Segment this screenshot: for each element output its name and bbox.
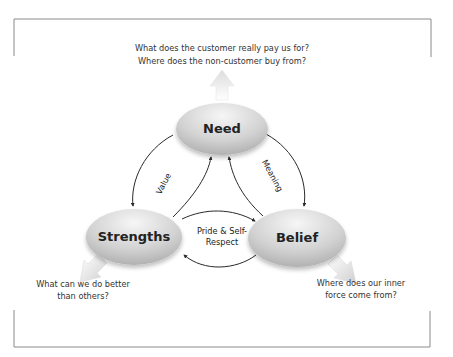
- belief-to-need-arrow: [229, 157, 263, 216]
- value-arrow: [133, 135, 173, 206]
- cycle-diagram: What does the customer really pay us for…: [0, 0, 453, 357]
- need-question-line1: What does the customer really pay us for…: [135, 43, 309, 53]
- strengths-to-need-arrow: [173, 157, 211, 217]
- belief-to-strengths-arrow: [184, 255, 256, 267]
- up-block-arrow-icon: [210, 70, 234, 100]
- pride-label-line2: Respect: [206, 237, 239, 247]
- need-node: Need: [176, 103, 268, 155]
- strengths-to-belief-arrow: [182, 211, 255, 221]
- strengths-node: Strengths: [86, 209, 182, 265]
- strengths-question-line2: than others?: [57, 291, 109, 301]
- need-label: Need: [203, 121, 241, 136]
- strengths-question-line1: What can we do better: [36, 279, 130, 289]
- belief-label: Belief: [276, 230, 318, 245]
- strengths-label: Strengths: [98, 229, 171, 244]
- meaning-label: Meaning: [260, 158, 285, 194]
- belief-question-line2: force come from?: [325, 290, 397, 300]
- belief-node: Belief: [248, 209, 346, 267]
- value-label: Value: [154, 171, 173, 196]
- pride-label-line1: Pride & Self-: [197, 226, 247, 236]
- need-question-line2: Where does the non-customer buy from?: [138, 56, 306, 66]
- belief-question-line1: Where does our inner: [317, 278, 406, 288]
